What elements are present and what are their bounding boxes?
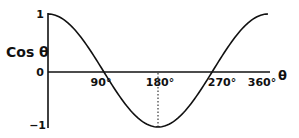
x-axis-label: θ [278, 68, 287, 83]
y-axis-label: Cos θ [6, 44, 49, 60]
cosine-chart: 1 0 −1 Cos θ 90° 180° 270° 360° θ [0, 0, 299, 138]
cosine-curve [48, 14, 268, 127]
y-tick-minus1: −1 [29, 119, 46, 132]
x-tick-90: 90° [91, 76, 112, 89]
y-tick-0: 0 [36, 66, 44, 79]
x-tick-180: 180° [146, 76, 174, 89]
x-tick-270: 270° [208, 76, 236, 89]
y-tick-1: 1 [36, 8, 44, 21]
x-tick-360: 360° [248, 76, 276, 89]
